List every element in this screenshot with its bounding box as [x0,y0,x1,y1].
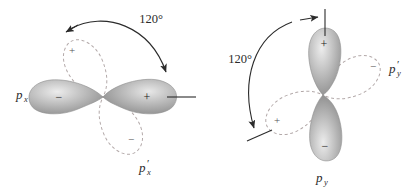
angle-label-right: 120° [228,52,252,66]
solid-lobe-right [103,79,177,114]
dashed-lobe-sign-plus-left: + [69,44,75,56]
orbital-label-px-prime-subscript: x [146,167,151,177]
orbital-rotation-figure: + − − + 120° p x p ′ [0,0,417,192]
orbital-label-py-subscript: y [323,177,328,187]
solid-lobe-sign-plus-right: + [144,90,151,104]
diagram-left-px: + − − + 120° p x p ′ [15,12,196,177]
orbital-label-py-prime-base: p [388,61,396,76]
diagram-right-py: − + + − 120° p y p [228,9,401,187]
dashed-lobe-sign-minus-right: − [370,60,376,72]
solid-lobe-sign-minus-left: − [56,90,63,104]
figure-canvas: + − − + 120° p x p ′ [0,0,417,192]
solid-orbital-px [29,79,177,114]
dashed-lobe-sign-minus-left: − [128,133,134,145]
rotation-arc-right [249,22,292,128]
orbital-label-px-base: p [15,87,23,102]
orbital-label-py-prime: p ′ y [388,58,401,78]
orbital-label-px-prime-base: p [138,160,146,175]
rotation-arc-start-arrow-left [66,25,78,32]
orbital-label-py: p y [315,170,328,187]
angle-label-left: 120° [139,12,163,26]
solid-lobe-left [29,80,103,114]
orbital-label-px-subscript: x [23,94,28,104]
solid-lobe-sign-plus-top: + [321,37,328,51]
reference-tick-diagonal-right [247,130,272,141]
orbital-label-px-prime: p ′ x [138,157,151,177]
rotation-arc-left [70,21,166,72]
solid-lobe-sign-minus-bottom: − [322,139,329,153]
orbital-label-py-base: p [315,170,323,185]
orbital-label-py-prime-subscript: y [396,68,401,78]
dashed-lobe-sign-plus-right: + [274,114,280,126]
orbital-label-px: p x [15,87,28,104]
rotation-arc-start-arrow-right [300,17,318,20]
